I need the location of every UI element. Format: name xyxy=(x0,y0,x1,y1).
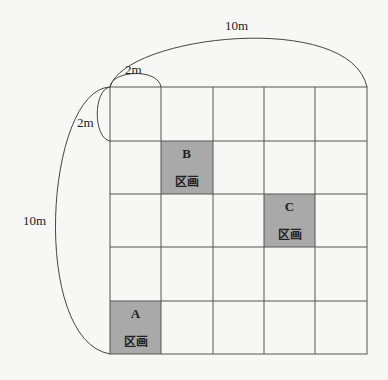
plot-b: B 区画 xyxy=(161,146,212,189)
left-cell-label: 2m xyxy=(77,116,94,129)
top-total-label: 10m xyxy=(225,19,248,32)
plot-a-letter: A xyxy=(110,306,161,322)
plot-c-letter: C xyxy=(264,199,315,215)
top-cell-label: 2m xyxy=(125,63,142,76)
plot-a: A 区画 xyxy=(110,306,161,349)
dimension-arcs xyxy=(55,38,367,354)
plot-c-word: 区画 xyxy=(264,225,315,242)
field-grid-diagram xyxy=(0,0,388,380)
plot-b-letter: B xyxy=(161,146,212,162)
left-cell-arc xyxy=(97,87,110,141)
plot-a-word: 区画 xyxy=(110,332,161,349)
top-total-arc xyxy=(110,38,367,87)
left-total-label: 10m xyxy=(23,214,46,227)
plot-b-word: 区画 xyxy=(161,172,212,189)
plot-c: C 区画 xyxy=(264,199,315,242)
